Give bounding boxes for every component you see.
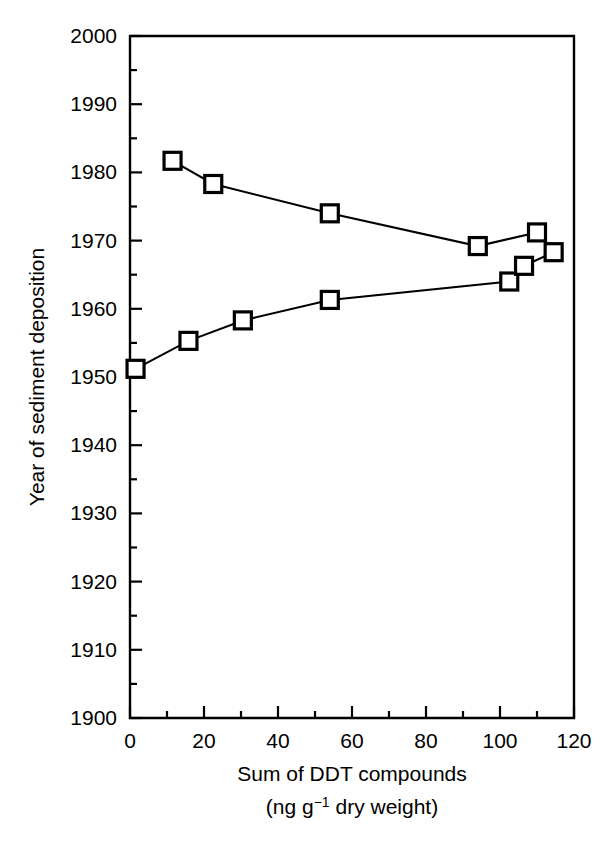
y-tick-label: 1960 xyxy=(70,297,117,320)
y-tick-label: 1980 xyxy=(70,160,117,183)
y-tick-label: 1910 xyxy=(70,638,117,661)
data-point-marker xyxy=(469,238,486,255)
x-tick-label: 20 xyxy=(192,729,215,752)
y-axis-title: Year of sediment deposition xyxy=(25,248,48,506)
y-tick-label: 2000 xyxy=(70,24,117,47)
figure-container: 020406080100120 190019101920193019401950… xyxy=(0,0,611,851)
y-axis-tick-labels: 1900191019201930194019501960197019801990… xyxy=(70,24,117,729)
x-axis-title: Sum of DDT compounds xyxy=(237,762,467,785)
data-point-marker xyxy=(127,360,144,377)
y-tick-label: 1990 xyxy=(70,92,117,115)
x-tick-label: 60 xyxy=(340,729,363,752)
x-tick-label: 100 xyxy=(482,729,517,752)
data-point-marker xyxy=(164,152,181,169)
y-tick-label: 1900 xyxy=(70,706,117,729)
y-tick-label: 1940 xyxy=(70,433,117,456)
y-tick-label: 1930 xyxy=(70,501,117,524)
y-tick-label: 1970 xyxy=(70,229,117,252)
x-tick-label: 0 xyxy=(124,729,136,752)
data-point-marker xyxy=(205,175,222,192)
x-tick-label: 40 xyxy=(266,729,289,752)
data-point-marker xyxy=(321,205,338,222)
data-point-marker xyxy=(516,257,533,274)
ddt-sediment-chart: 020406080100120 190019101920193019401950… xyxy=(0,0,611,851)
data-series-group xyxy=(127,152,562,377)
data-point-marker xyxy=(545,244,562,261)
x-axis-tick-labels: 020406080100120 xyxy=(124,729,591,752)
data-point-marker xyxy=(234,312,251,329)
x-axis-units-label: (ng g−1 dry weight) xyxy=(266,794,438,818)
data-point-marker xyxy=(180,332,197,349)
data-point-marker xyxy=(529,224,546,241)
x-tick-label: 80 xyxy=(414,729,437,752)
y-tick-label: 1950 xyxy=(70,365,117,388)
data-point-marker xyxy=(321,291,338,308)
x-axis-ticks xyxy=(130,706,574,718)
x-tick-label: 120 xyxy=(556,729,591,752)
y-tick-label: 1920 xyxy=(70,570,117,593)
plot-frame xyxy=(130,36,574,718)
